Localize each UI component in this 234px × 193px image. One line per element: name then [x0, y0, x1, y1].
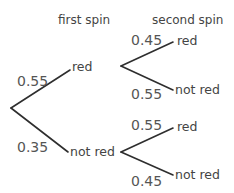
header-first-spin: first spin: [58, 14, 110, 26]
prob-red-not-red: 0.55: [131, 87, 162, 101]
probability-tree-diagram: first spin second spin 0.55 red 0.35 not…: [0, 0, 234, 193]
outcome-first-not-red: not red: [70, 146, 115, 159]
prob-red-red: 0.45: [131, 33, 162, 47]
prob-not-red-not-red: 0.45: [131, 174, 162, 188]
prob-first-not-red: 0.35: [17, 140, 48, 154]
prob-first-red: 0.55: [17, 74, 48, 88]
outcome-not-red-red: red: [177, 121, 198, 134]
prob-not-red-red: 0.55: [131, 118, 162, 132]
outcome-red-not-red: not red: [175, 84, 220, 97]
header-second-spin: second spin: [152, 14, 223, 26]
branch-not-red-not-red: [121, 152, 173, 175]
outcome-first-red: red: [72, 61, 93, 74]
outcome-red-red: red: [177, 35, 198, 48]
outcome-not-red-not-red: not red: [175, 169, 220, 182]
